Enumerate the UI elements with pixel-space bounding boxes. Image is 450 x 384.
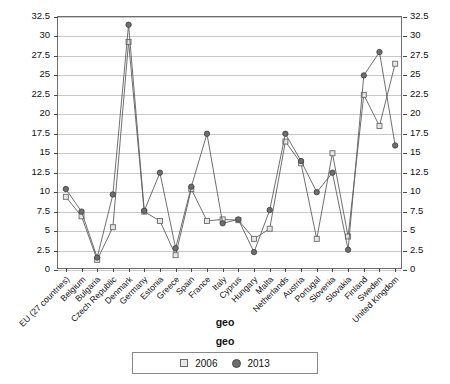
data-point-2013-Hungary[interactable] [251, 249, 256, 254]
y-axis-tick-label-left: 10 [8, 186, 50, 196]
y-axis-tick-label-left: 25 [8, 69, 50, 79]
data-point-2006-Slovenia[interactable] [330, 151, 335, 156]
data-point-2013-Bulgaria[interactable] [95, 255, 100, 260]
y-axis-tick-label-right: 7.5 [410, 206, 423, 216]
legend-title-text: geo [0, 335, 450, 347]
data-point-2013-Finland[interactable] [361, 73, 366, 78]
y-axis-tick-label-left: 20 [8, 108, 50, 118]
line-chart: geo geo 2006 2013 002.52.5557.57.5101012… [0, 0, 450, 384]
data-point-2013-Greece[interactable] [173, 246, 178, 251]
y-tick-mark [54, 270, 58, 271]
y-axis-tick-label-right: 27.5 [410, 50, 429, 60]
data-point-2013-EU (27 countries)[interactable] [63, 186, 68, 191]
data-point-2006-Estonia[interactable] [157, 218, 162, 223]
data-point-2013-Germany[interactable] [142, 208, 147, 213]
data-point-2013-Slovakia[interactable] [345, 247, 350, 252]
y-axis-tick-label-right: 25 [410, 69, 421, 79]
y-axis-tick-label-left: 12.5 [8, 167, 50, 177]
y-tick-mark [403, 212, 407, 213]
y-tick-mark [403, 251, 407, 252]
plot-inner [58, 17, 401, 268]
data-point-2013-Slovenia[interactable] [330, 170, 335, 175]
y-axis-tick-label-left: 2.5 [8, 245, 50, 255]
data-point-2006-Malta[interactable] [267, 226, 272, 231]
y-axis-tick-label-left: 32.5 [8, 11, 50, 21]
plot-area [57, 16, 402, 269]
data-point-2013-United Kingdom[interactable] [392, 143, 397, 148]
y-axis-tick-label-right: 32.5 [410, 11, 429, 21]
y-axis-tick-label-right: 0 [410, 264, 415, 274]
y-tick-mark [403, 270, 407, 271]
y-tick-mark [403, 231, 407, 232]
data-point-2006-United Kingdom[interactable] [393, 61, 398, 66]
series-layer [58, 17, 403, 270]
data-point-2013-Cyprus[interactable] [236, 217, 241, 222]
data-point-2013-Netherlands[interactable] [283, 131, 288, 136]
data-point-2006-France[interactable] [204, 218, 209, 223]
y-axis-tick-label-left: 0 [8, 264, 50, 274]
y-axis-tick-label-left: 27.5 [8, 50, 50, 60]
data-point-2013-Austria[interactable] [298, 158, 303, 163]
y-axis-tick-label-right: 15 [410, 147, 421, 157]
y-axis-tick-label-right: 2.5 [410, 245, 423, 255]
y-tick-mark [403, 192, 407, 193]
y-axis-tick-label-right: 30 [410, 30, 421, 40]
y-axis-tick-label-left: 22.5 [8, 89, 50, 99]
data-point-2006-Hungary[interactable] [252, 236, 257, 241]
y-axis-tick-label-left: 15 [8, 147, 50, 157]
data-point-2013-Estonia[interactable] [157, 170, 162, 175]
data-point-2006-Portugal[interactable] [314, 236, 319, 241]
y-tick-mark [403, 114, 407, 115]
y-axis-tick-label-left: 5 [8, 225, 50, 235]
y-tick-mark [403, 153, 407, 154]
y-tick-mark [403, 75, 407, 76]
y-tick-mark [403, 56, 407, 57]
y-axis-tick-label-right: 20 [410, 108, 421, 118]
y-axis-tick-label-left: 7.5 [8, 206, 50, 216]
y-tick-mark [403, 36, 407, 37]
y-axis-tick-label-left: 30 [8, 30, 50, 40]
data-point-2013-Italy[interactable] [220, 221, 225, 226]
y-tick-mark [403, 173, 407, 174]
data-point-2006-Czech Republic[interactable] [110, 225, 115, 230]
data-point-2013-Spain[interactable] [189, 184, 194, 189]
data-point-2013-Czech Republic[interactable] [110, 192, 115, 197]
data-point-2013-France[interactable] [204, 131, 209, 136]
data-point-2006-Greece[interactable] [173, 253, 178, 258]
data-point-2006-Sweden[interactable] [377, 123, 382, 128]
y-axis-tick-label-right: 17.5 [410, 128, 429, 138]
y-tick-mark [403, 17, 407, 18]
data-point-2013-Malta[interactable] [267, 207, 272, 212]
data-point-2013-Denmark[interactable] [126, 22, 131, 27]
data-point-2006-EU (27 countries)[interactable] [63, 194, 68, 199]
y-axis-tick-label-right: 22.5 [410, 89, 429, 99]
data-point-2013-Sweden[interactable] [377, 49, 382, 54]
y-tick-mark [403, 134, 407, 135]
y-axis-tick-label-right: 5 [410, 225, 415, 235]
y-axis-tick-label-right: 10 [410, 186, 421, 196]
gridline [58, 270, 401, 271]
y-tick-mark [403, 95, 407, 96]
data-point-2013-Belgium[interactable] [79, 209, 84, 214]
data-point-2013-Portugal[interactable] [314, 189, 319, 194]
y-axis-tick-label-right: 12.5 [410, 167, 429, 177]
y-axis-tick-label-left: 17.5 [8, 128, 50, 138]
